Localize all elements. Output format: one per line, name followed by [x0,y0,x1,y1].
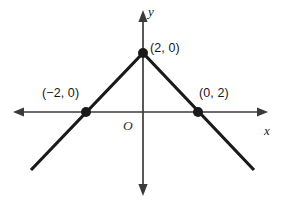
point-label-right: (0, 2) [199,87,229,100]
y-axis-bottom-arrowhead [138,184,147,196]
coordinate-plane-svg [0,0,281,220]
point-left [81,107,91,117]
graph-figure: (2, 0) (−2, 0) (0, 2) x y O [0,0,281,220]
x-axis-left-arrowhead [13,108,24,117]
y-axis [138,10,147,196]
y-axis-top-arrowhead [138,10,147,22]
origin-label: O [123,119,133,133]
marked-points [81,48,203,117]
point-label-vertex: (2, 0) [150,42,180,55]
point-label-left: (−2, 0) [42,87,79,100]
x-axis-label: x [264,124,270,137]
x-axis-right-arrowhead [257,108,268,117]
point-right [193,107,203,117]
x-axis [13,108,268,117]
y-axis-label: y [148,5,154,18]
point-vertex [138,48,148,58]
